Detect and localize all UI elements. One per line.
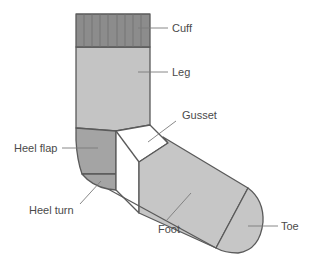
heel-flap-label: Heel flap — [14, 142, 57, 154]
toe-label: Toe — [281, 220, 299, 232]
heel-flap-region — [76, 128, 116, 174]
heel-turn-label: Heel turn — [29, 204, 74, 216]
cuff-label: Cuff — [172, 22, 193, 34]
sock-diagram: Cuff Leg Gusset Heel flap Heel turn Foot… — [0, 0, 309, 271]
cuff-region — [76, 14, 150, 47]
heel-turn-leader — [80, 181, 101, 204]
gusset-label: Gusset — [182, 109, 217, 121]
leg-region — [76, 47, 150, 131]
heel-turn-region — [82, 174, 116, 190]
foot-label: Foot — [158, 223, 180, 235]
leg-label: Leg — [172, 66, 190, 78]
